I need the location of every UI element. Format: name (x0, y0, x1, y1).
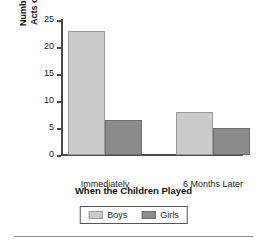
y-axis-title-line-1: Number of Imitative (18, 0, 29, 44)
bar-girls-0 (105, 120, 142, 155)
legend-swatch-girls (141, 211, 155, 219)
bar-girls-1 (213, 128, 250, 155)
legend-item-boys: Boys (88, 210, 127, 220)
y-axis-title-line-2: Acts of Aggression (29, 0, 40, 44)
footer-divider (14, 236, 253, 237)
y-tick-label: 15 (44, 68, 54, 79)
legend-label: Girls (160, 210, 179, 220)
y-tick-mark (57, 101, 61, 103)
y-tick-label: 20 (44, 41, 54, 52)
y-tick-label: 5 (49, 122, 54, 133)
bar-chart-figure: Number of Imitative Acts of Aggression 0… (0, 0, 267, 247)
y-tick-mark (57, 20, 61, 22)
plot-area: Number of Imitative Acts of Aggression 0… (62, 20, 242, 155)
y-tick-mark (57, 47, 61, 49)
chart-legend: BoysGirls (79, 206, 188, 224)
y-axis-title: Number of Imitative Acts of Aggression (18, 0, 40, 44)
y-tick-label: 0 (49, 149, 54, 160)
legend-item-girls: Girls (141, 210, 179, 220)
y-tick-mark (57, 128, 61, 130)
legend-label: Boys (107, 210, 127, 220)
y-tick-label: 25 (44, 14, 54, 25)
bar-boys-1 (176, 112, 213, 155)
y-tick-mark (57, 155, 61, 157)
bar-boys-0 (68, 31, 105, 155)
x-axis-title: When the Children Played (0, 185, 267, 196)
legend-swatch-boys (88, 211, 102, 219)
y-tick-label: 10 (44, 95, 54, 106)
y-tick-mark (57, 74, 61, 76)
